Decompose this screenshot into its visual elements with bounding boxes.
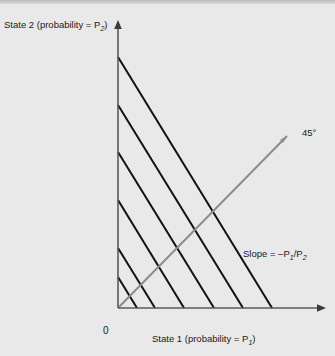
indifference-curve-diagram: State 2 (probability = P2) State 1 (prob…: [0, 0, 335, 356]
slope-annotation: Slope = –P1/P2: [243, 249, 307, 262]
budget-line-2: [118, 248, 155, 308]
x-axis-label: State 1 (probability = P1): [152, 334, 255, 347]
x-axis-arrowhead: [317, 304, 326, 312]
angle-label: 45°: [302, 128, 316, 138]
budget-lines-group: [118, 57, 272, 308]
diagram-canvas: [0, 0, 335, 356]
y-axis-arrowhead: [114, 20, 122, 29]
slope-subscript-two: 2: [303, 254, 307, 261]
budget-line-6: [118, 57, 272, 308]
y-axis-label: State 2 (probability = P2): [4, 20, 107, 33]
origin-label: 0: [103, 325, 109, 336]
budget-line-4: [118, 152, 214, 308]
forty-five-degree-ray: [118, 136, 287, 308]
